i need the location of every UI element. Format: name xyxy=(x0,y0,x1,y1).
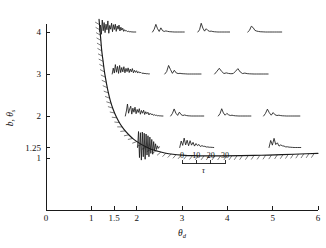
waveform-trace-r2-t0 xyxy=(125,104,163,116)
tau-tick-label-1: 10 xyxy=(192,151,200,160)
x-tick-label-7: 6 xyxy=(316,213,321,223)
hatch-tick xyxy=(240,156,243,160)
x-tick-label-5: 4 xyxy=(225,213,230,223)
y-tick-label-0: 1 xyxy=(37,153,42,163)
axis-labels-group: θdb, θs xyxy=(5,109,187,239)
waveform-trace-r0-t0 xyxy=(99,20,135,34)
y-tick-label-2: 2 xyxy=(37,111,42,121)
hatch-tick xyxy=(201,156,204,160)
waveform-row-3 xyxy=(112,65,268,74)
boundary-hatching xyxy=(95,22,314,160)
y-tick-label-4: 4 xyxy=(37,27,42,37)
axes-group: 011.52345611.25234 xyxy=(25,24,321,223)
waveform-trace-r2-t1 xyxy=(171,109,204,116)
x-tick-label-0: 0 xyxy=(44,213,49,223)
boundary-path xyxy=(99,19,318,156)
y-tick-label-1: 1.25 xyxy=(25,143,41,153)
hatch-tick xyxy=(124,135,129,136)
x-tick-label-4: 3 xyxy=(180,213,185,223)
stability-boundary-curve xyxy=(99,19,318,156)
waveform-trace-r3-t0 xyxy=(138,132,160,161)
y-tick-label-3: 3 xyxy=(37,69,42,79)
tau-scale-inset: 0102030τ xyxy=(180,151,229,175)
hatch-tick xyxy=(229,156,232,160)
x-tick-label-1: 1 xyxy=(89,213,94,223)
tau-tick-label-2: 20 xyxy=(207,151,215,160)
waveform-trace-r3-t2 xyxy=(269,138,301,147)
tau-axis-title: τ xyxy=(202,166,206,175)
waveform-trace-r1-t2 xyxy=(215,68,268,74)
x-tick-label-6: 5 xyxy=(270,213,275,223)
x-tick-label-2: 1.5 xyxy=(108,213,120,223)
waveform-trace-r0-t1 xyxy=(153,24,185,32)
figure-root: 011.52345611.25234 0102030τ θdb, θs xyxy=(0,0,326,248)
waveform-trace-r2-t3 xyxy=(264,109,300,116)
stability-diagram-plot: 011.52345611.25234 0102030τ θdb, θs xyxy=(0,0,326,248)
tau-tick-label-0: 0 xyxy=(180,151,184,160)
waveform-trace-r2-t2 xyxy=(218,109,251,116)
hatch-tick xyxy=(162,153,165,157)
y-axis-title: b, θs xyxy=(5,109,16,126)
tau-tick-label-3: 30 xyxy=(221,151,229,160)
x-tick-label-3: 2 xyxy=(134,213,139,223)
waveform-trace-r1-t1 xyxy=(165,65,201,74)
waveform-trace-r0-t3 xyxy=(248,26,282,32)
waveform-trace-r3-t1 xyxy=(180,138,214,147)
waveform-trace-r0-t2 xyxy=(198,23,230,32)
hatch-tick xyxy=(234,156,237,160)
x-axis-title: θd xyxy=(178,228,187,239)
waveform-row-2 xyxy=(125,104,300,116)
waveform-trace-r1-t0 xyxy=(112,65,149,74)
waveform-row-4 xyxy=(99,20,281,34)
